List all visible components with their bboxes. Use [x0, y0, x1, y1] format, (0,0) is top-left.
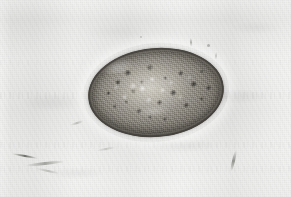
ghost-print-band-lower [0, 142, 291, 148]
photomicrograph-figure [0, 0, 291, 197]
dust-speck-upper-right-3 [207, 44, 210, 47]
dust-speck-top-center [140, 36, 142, 38]
